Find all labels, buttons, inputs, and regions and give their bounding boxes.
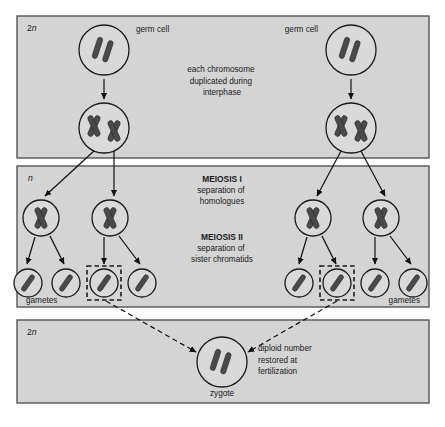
interphase-caption-line-2: duplicated during [190, 77, 253, 86]
zygote-label: zygote [210, 389, 235, 398]
duplicated-cell-left [79, 103, 129, 153]
meiosis-diagram-figure: 2n germ cell germ cell each chromosome d… [0, 0, 445, 427]
fertilization-caption-line-2: restored at [258, 356, 298, 365]
ploidy-label-middle: n [28, 173, 33, 183]
duplicated-cell-right [326, 103, 376, 153]
germ-cell-label-left: germ cell [136, 25, 169, 34]
fertilization-caption-line-1: diploid number [258, 344, 312, 353]
germ-cell-right [326, 25, 376, 75]
meiosis-i-description-line-2: homologues [200, 197, 245, 206]
meiosis-i-heading: MEIOSIS I [202, 174, 242, 184]
gametes-label-right: gametes [389, 296, 420, 305]
germ-cell-left [79, 25, 129, 75]
meiosis-ii-description-line-2: sister chromatids [191, 255, 253, 264]
ploidy-label-bottom: 2n [27, 327, 37, 337]
ploidy-label-top: 2n [27, 23, 37, 33]
zygote-cell [197, 337, 247, 387]
meiosis-i-description-line-1: separation of [197, 186, 245, 195]
meiosis-ii-description-line-1: separation of [197, 244, 245, 253]
fertilization-caption-line-3: fertilization [258, 367, 298, 376]
gametes-label-left: gametes [26, 296, 57, 305]
interphase-caption-line-1: each chromosome [187, 65, 255, 74]
interphase-caption-line-3: interphase [203, 88, 242, 97]
meiosis-ii-heading: MEIOSIS II [201, 232, 243, 242]
germ-cell-label-right: germ cell [285, 25, 318, 34]
